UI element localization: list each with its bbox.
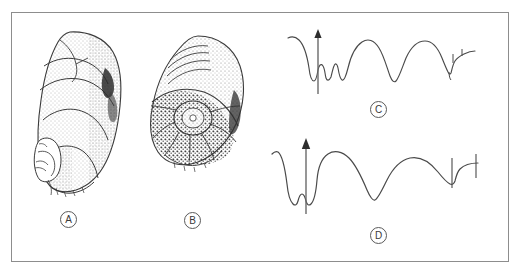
panel-label-b: B xyxy=(184,212,201,229)
venter-arrow-d xyxy=(302,138,310,214)
panel-label-d: D xyxy=(370,227,387,244)
panel-label-c: C xyxy=(370,101,387,118)
venter-arrow-c xyxy=(314,29,321,94)
suture-line-c-diagram xyxy=(286,28,476,98)
figure-plate: A B C D xyxy=(0,0,522,274)
specimen-a-drawing xyxy=(26,28,136,208)
suture-line-d-diagram xyxy=(270,136,482,218)
specimen-b-drawing xyxy=(148,30,250,206)
panel-label-a: A xyxy=(60,211,77,228)
